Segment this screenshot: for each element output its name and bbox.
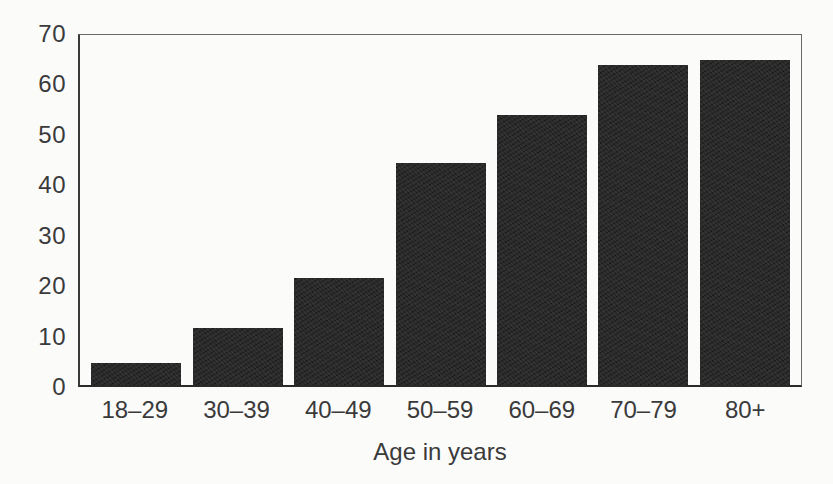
y-axis-tick-labels: 010203040506070 bbox=[0, 34, 66, 387]
y-tick-label-20: 20 bbox=[38, 274, 66, 298]
y-tick-label-0: 0 bbox=[52, 375, 66, 399]
y-tick-label-10: 10 bbox=[38, 325, 66, 349]
x-axis-title: Age in years bbox=[78, 438, 802, 466]
x-axis-tick-labels: 18–2930–3940–4950–5960–6970–7980+ bbox=[78, 398, 802, 422]
bar-60–69 bbox=[497, 115, 587, 385]
y-tick-label-70: 70 bbox=[38, 22, 66, 46]
x-tick-label-40–49: 40–49 bbox=[293, 398, 383, 422]
bar-70–79 bbox=[598, 65, 688, 385]
x-tick-label-80+: 80+ bbox=[700, 398, 790, 422]
bar-chart-figure: 010203040506070 18–2930–3940–4950–5960–6… bbox=[0, 0, 833, 484]
bar-50–59 bbox=[396, 163, 486, 386]
bar-80+ bbox=[700, 60, 790, 385]
y-tick-label-60: 60 bbox=[38, 72, 66, 96]
x-tick-label-50–59: 50–59 bbox=[395, 398, 485, 422]
plot-area bbox=[78, 34, 802, 387]
bar-18–29 bbox=[91, 363, 181, 386]
x-tick-label-60–69: 60–69 bbox=[497, 398, 587, 422]
bar-30–39 bbox=[193, 328, 283, 386]
x-tick-label-70–79: 70–79 bbox=[599, 398, 689, 422]
x-tick-label-30–39: 30–39 bbox=[192, 398, 282, 422]
y-tick-label-30: 30 bbox=[38, 224, 66, 248]
y-tick-label-40: 40 bbox=[38, 173, 66, 197]
x-tick-label-18–29: 18–29 bbox=[90, 398, 180, 422]
bar-40–49 bbox=[294, 278, 384, 386]
y-tick-label-50: 50 bbox=[38, 123, 66, 147]
